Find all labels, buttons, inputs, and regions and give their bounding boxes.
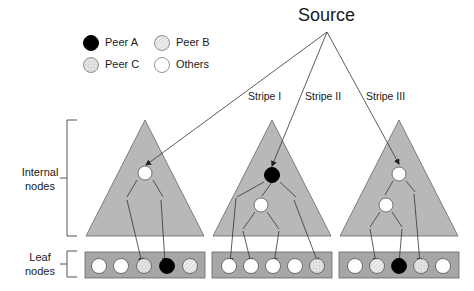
leaf-peer-c: [137, 259, 152, 274]
p2p-stripe-diagram: [0, 0, 474, 291]
source-label: Source: [298, 5, 355, 26]
leaf-other: [244, 259, 259, 274]
stripe-2-label: Stripe II: [305, 90, 341, 102]
legend-peer-a-label: Peer A: [105, 36, 138, 48]
legend-peer-c-label: Peer C: [105, 58, 139, 70]
leaf-nodes-bracket: [60, 251, 77, 277]
stripe-1-node-other: [138, 166, 152, 180]
stripe-2-node-peer-a: [265, 168, 280, 183]
stripe-3-node-other-1: [392, 167, 406, 181]
leaf-other: [114, 259, 129, 274]
leaf-peer-a: [392, 259, 407, 274]
leaf-other: [222, 259, 237, 274]
leaf-nodes-line1: Leaf: [20, 250, 60, 264]
leaf-nodes-label: Leaf nodes: [20, 250, 60, 278]
leaf-other: [288, 259, 303, 274]
legend-others-label: Others: [176, 58, 209, 70]
internal-nodes-line1: Internal: [18, 165, 62, 179]
legend-peer-b-label: Peer B: [176, 36, 210, 48]
legend-others-icon: [155, 58, 170, 73]
legend-peer-a-icon: [84, 36, 99, 51]
leaf-peer-c: [414, 259, 429, 274]
legend-peer-b-icon: [155, 36, 170, 51]
leaf-other: [92, 259, 107, 274]
stripe-3-label: Stripe III: [366, 90, 405, 102]
legend-peer-c-icon: [84, 58, 99, 73]
leaf-other: [436, 259, 451, 274]
internal-nodes-line2: nodes: [18, 179, 62, 193]
stripe-1-label: Stripe I: [248, 90, 281, 102]
internal-nodes-bracket: [60, 120, 77, 236]
stripe-3-node-other-2: [379, 198, 393, 212]
internal-nodes-label: Internal nodes: [18, 165, 62, 193]
stripe-2-node-other: [254, 198, 268, 212]
leaf-other: [266, 259, 281, 274]
leaf-peer-b: [370, 259, 385, 274]
leaf-peer-a: [160, 259, 175, 274]
leaf-peer-b: [183, 259, 198, 274]
leaf-other: [348, 259, 363, 274]
leaf-nodes-line2: nodes: [20, 264, 60, 278]
leaf-peer-c: [310, 259, 325, 274]
